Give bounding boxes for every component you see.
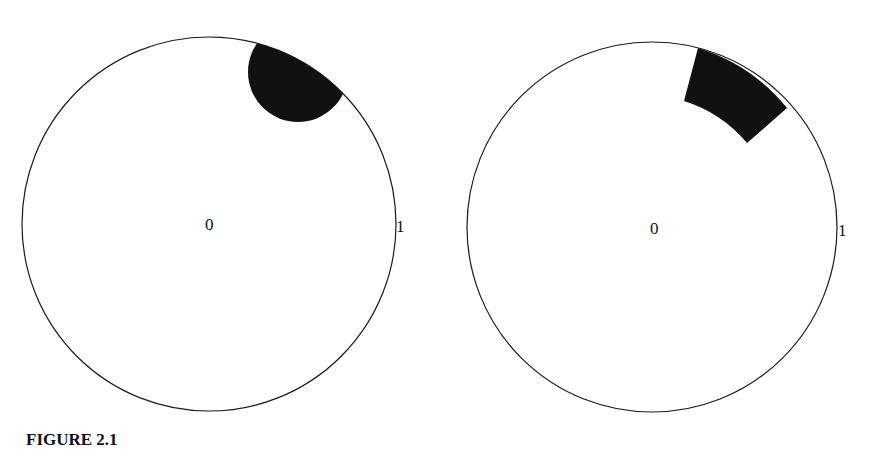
left-shaded-region	[248, 22, 348, 122]
right-center-label: 0	[650, 220, 659, 237]
figure-caption: FIGURE 2.1	[26, 430, 118, 450]
figure-canvas	[0, 0, 871, 456]
right-boundary-label: 1	[838, 222, 847, 239]
left-center-label: 0	[205, 216, 214, 233]
left-boundary-label: 1	[396, 218, 405, 235]
